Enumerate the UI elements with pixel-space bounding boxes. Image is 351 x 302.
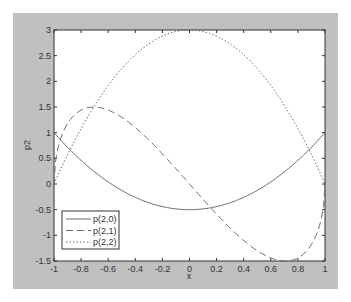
y-tick-label: 0.5 xyxy=(38,153,51,163)
y-tick-label: 0 xyxy=(46,179,51,189)
y-tick-label: 2 xyxy=(46,76,51,86)
x-tick-label: -0.6 xyxy=(100,264,116,274)
y-tick-label: 3 xyxy=(46,25,51,35)
legend: p(2,0)p(2,1)p(2,2) xyxy=(62,211,119,249)
y-tick-label: 1 xyxy=(46,128,51,138)
x-tick-label: 0.6 xyxy=(265,264,278,274)
x-tick-label: 0.8 xyxy=(292,264,305,274)
x-tick-label: 0.2 xyxy=(210,264,223,274)
y-tick-label: -0.5 xyxy=(35,205,51,215)
x-tick-label: -0.2 xyxy=(155,264,171,274)
y-tick-label: -1.5 xyxy=(35,256,51,266)
legend-label: p(2,1) xyxy=(93,226,117,236)
y-axis-label: p2 xyxy=(22,140,32,150)
figure: -1-0.8-0.6-0.4-0.200.20.40.60.81 -1.5-1-… xyxy=(0,0,351,302)
x-tick-label: 0.4 xyxy=(237,264,250,274)
x-tick-label: -0.8 xyxy=(73,264,89,274)
legend-label: p(2,2) xyxy=(93,237,117,247)
x-tick-label: -0.4 xyxy=(128,264,144,274)
x-tick-label: 1 xyxy=(322,264,327,274)
x-tick-label: -1 xyxy=(50,264,58,274)
y-tick-label: 2.5 xyxy=(38,51,51,61)
x-axis-label: x xyxy=(187,271,192,281)
legend-label: p(2,0) xyxy=(93,214,117,224)
y-tick-label: -1 xyxy=(43,230,51,240)
y-tick-label: 1.5 xyxy=(38,102,51,112)
